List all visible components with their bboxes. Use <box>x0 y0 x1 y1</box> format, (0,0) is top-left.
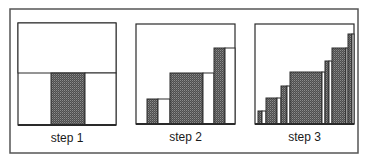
shaded-bar <box>281 86 287 124</box>
shaded-bar <box>170 73 203 124</box>
open-bar <box>225 48 235 124</box>
step-3-label: step 3 <box>255 130 354 144</box>
shaded-bar <box>325 61 329 124</box>
shaded-bar <box>147 99 158 124</box>
shaded-bar <box>332 48 346 124</box>
open-bar <box>18 23 116 73</box>
panel-step-3 <box>255 24 354 124</box>
open-bar <box>262 111 266 124</box>
shaded-bar <box>348 34 352 124</box>
step-2-label: step 2 <box>136 130 235 144</box>
shaded-bar <box>266 98 277 124</box>
shaded-bar <box>258 111 262 124</box>
shaded-bar <box>214 48 225 124</box>
shaded-bar <box>290 72 322 124</box>
shaded-bar <box>51 73 85 125</box>
open-bar <box>85 73 116 125</box>
open-bar <box>277 98 281 124</box>
open-bar <box>158 99 170 124</box>
panel-step-1 <box>18 23 116 125</box>
open-bar <box>352 34 354 124</box>
step-1-label: step 1 <box>18 131 116 145</box>
open-bar <box>203 73 214 124</box>
staircase-refinement-figure: step 1 step 2 step 3 <box>0 0 370 162</box>
panel-step-2 <box>136 24 235 124</box>
